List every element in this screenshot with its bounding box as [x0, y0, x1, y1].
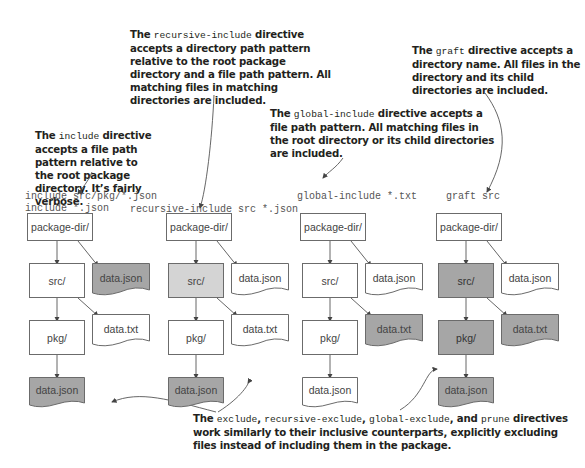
file-label: data.json — [168, 384, 224, 396]
annot-code: prune — [481, 414, 510, 425]
annot-text: The — [270, 108, 294, 119]
annot-text: The — [412, 45, 436, 56]
dir-node-src: src/ — [29, 263, 85, 298]
annot-code: global-include — [294, 109, 375, 120]
command-graft: graft src — [446, 191, 500, 203]
file-label: data.json — [501, 272, 559, 284]
dir-node-pkg: pkg/ — [168, 320, 224, 355]
dir-node-src: src/ — [438, 263, 494, 298]
file-node-pkg-data-json: data.json — [302, 377, 358, 409]
annot-code: global-exclude — [369, 414, 450, 425]
dir-node-root: package-dir/ — [166, 213, 232, 241]
annot-code: exclude — [217, 414, 257, 425]
annotation-global-include: The global-include directive accepts a f… — [270, 107, 495, 160]
annot-text: , and — [450, 413, 481, 424]
file-node-root-data-json: data.json — [365, 263, 423, 297]
dir-node-pkg: pkg/ — [29, 320, 85, 355]
command-global-include: global-include *.txt — [297, 191, 417, 203]
dir-node-src: src/ — [302, 263, 358, 298]
annot-code: recursive-include — [154, 30, 252, 41]
file-node-src-data-txt: data.txt — [92, 314, 150, 348]
file-label: data.txt — [231, 323, 289, 335]
file-label: data.json — [365, 272, 423, 284]
file-node-root-data-json: data.json — [231, 263, 289, 297]
dir-node-root: package-dir/ — [300, 213, 366, 241]
annot-code: graft — [436, 46, 465, 57]
dir-node-pkg: pkg/ — [438, 320, 494, 355]
file-label: data.txt — [501, 323, 559, 335]
file-node-pkg-data-json: data.json — [168, 377, 224, 409]
file-label: data.json — [438, 384, 494, 396]
annotation-exclude: The exclude, recursive-exclude, global-e… — [193, 412, 573, 452]
file-node-src-data-txt: data.txt — [365, 314, 423, 348]
file-label: data.txt — [92, 323, 150, 335]
file-label: data.json — [231, 272, 289, 284]
dir-node-root: package-dir/ — [436, 213, 502, 241]
annotation-graft: The graft directive accepts a directory … — [412, 44, 582, 97]
dir-node-root: package-dir/ — [27, 213, 93, 241]
file-label: data.txt — [365, 323, 423, 335]
file-node-src-data-txt: data.txt — [501, 314, 559, 348]
annot-code: include — [59, 131, 99, 142]
file-node-root-data-json: data.json — [501, 263, 559, 297]
dir-node-pkg: pkg/ — [302, 320, 358, 355]
annot-text: The — [35, 130, 59, 141]
dir-node-src: src/ — [168, 263, 224, 298]
file-label: data.json — [29, 384, 85, 396]
file-node-root-data-json: data.json — [92, 263, 150, 297]
file-node-pkg-data-json: data.json — [29, 377, 85, 409]
file-label: data.json — [302, 384, 358, 396]
annot-code: recursive-exclude — [264, 414, 362, 425]
annot-text: The — [130, 29, 154, 40]
file-node-src-data-txt: data.txt — [231, 314, 289, 348]
annotation-recursive-include: The recursive-include directive accepts … — [130, 28, 338, 107]
annot-text: The — [193, 413, 217, 424]
file-label: data.json — [92, 272, 150, 284]
file-node-pkg-data-json: data.json — [438, 377, 494, 409]
